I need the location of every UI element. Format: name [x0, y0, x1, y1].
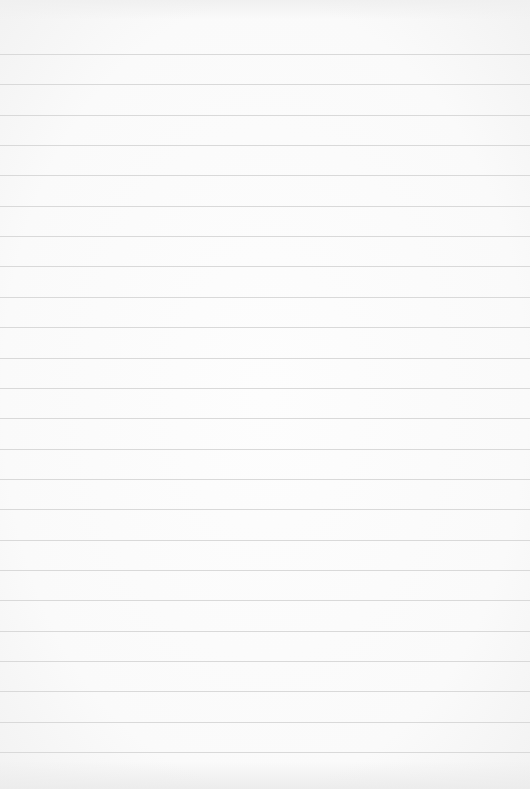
ruled-line [0, 327, 530, 328]
paper-bottom-edge [0, 761, 530, 789]
ruled-line [0, 449, 530, 450]
ruled-line [0, 418, 530, 419]
ruled-line [0, 600, 530, 601]
ruled-line [0, 175, 530, 176]
ruled-line [0, 722, 530, 723]
ruled-line [0, 206, 530, 207]
ruled-line [0, 540, 530, 541]
ruled-line [0, 570, 530, 571]
ruled-line [0, 661, 530, 662]
lined-paper [0, 0, 530, 789]
paper-top-edge [0, 0, 530, 20]
ruled-line [0, 266, 530, 267]
ruled-line [0, 479, 530, 480]
ruled-line [0, 631, 530, 632]
ruled-line [0, 115, 530, 116]
ruled-line [0, 358, 530, 359]
ruled-line [0, 145, 530, 146]
ruled-line [0, 388, 530, 389]
ruled-line [0, 236, 530, 237]
ruled-line [0, 752, 530, 753]
ruled-line [0, 84, 530, 85]
ruled-line [0, 509, 530, 510]
ruled-line [0, 297, 530, 298]
ruled-line [0, 54, 530, 55]
ruled-line [0, 691, 530, 692]
